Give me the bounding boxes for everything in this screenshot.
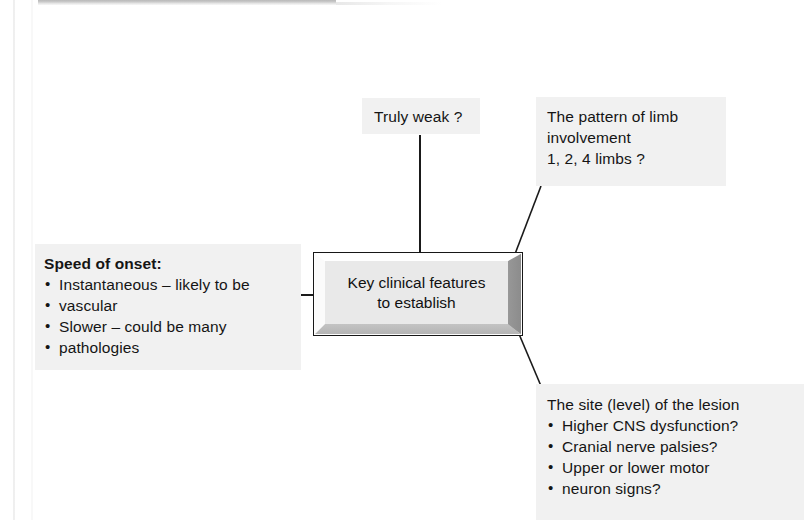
bullet-line2: neuron signs? xyxy=(562,480,661,497)
branch-speed-of-onset[interactable]: Speed of onset: Instantaneous – likely t… xyxy=(35,244,301,370)
list-item: Instantaneous – likely to be xyxy=(44,274,291,295)
bullet-line1: Upper or lower motor xyxy=(562,459,710,476)
bullet-line1: Slower – could be many xyxy=(59,318,227,335)
list-item-continuation: vascular xyxy=(44,295,291,316)
branch-limb-pattern[interactable]: The pattern of limb involvement 1, 2, 4 … xyxy=(536,97,726,186)
branch-speed-of-onset-list: Instantaneous – likely to be vascular Sl… xyxy=(44,274,291,358)
central-node-key-clinical-features[interactable]: Key clinical features to establish xyxy=(313,252,523,336)
list-item: Cranial nerve palsies? xyxy=(547,436,804,457)
branch-limb-pattern-line2: involvement xyxy=(547,127,726,148)
list-item: Upper or lower motor xyxy=(547,457,804,478)
bullet-line1: Instantaneous – likely to be xyxy=(59,276,250,293)
list-item: Slower – could be many xyxy=(44,316,291,337)
branch-limb-pattern-line3: 1, 2, 4 limbs ? xyxy=(547,148,726,169)
list-item: Higher CNS dysfunction? xyxy=(547,415,804,436)
branch-limb-pattern-line1: The pattern of limb xyxy=(547,106,726,127)
diagram-canvas: Key clinical features to establish Truly… xyxy=(0,0,805,520)
bullet-line1: Cranial nerve palsies? xyxy=(562,438,718,455)
central-node-label-line2: to establish xyxy=(377,293,455,313)
branch-lesion-site[interactable]: The site (level) of the lesion Higher CN… xyxy=(536,384,804,520)
branch-lesion-site-title: The site (level) of the lesion xyxy=(547,394,804,415)
list-item-continuation: neuron signs? xyxy=(547,478,804,499)
branch-lesion-site-list: Higher CNS dysfunction? Cranial nerve pa… xyxy=(547,415,804,499)
branch-speed-of-onset-title: Speed of onset: xyxy=(44,253,291,274)
central-node-label: Key clinical features to establish xyxy=(325,261,508,324)
bullet-line2: vascular xyxy=(59,297,118,314)
bullet-line1: Higher CNS dysfunction? xyxy=(562,417,738,434)
branch-truly-weak-text: Truly weak ? xyxy=(374,108,463,125)
list-item-continuation: pathologies xyxy=(44,337,291,358)
central-node-bevel-bottom xyxy=(315,322,522,334)
central-node-label-line1: Key clinical features xyxy=(348,273,486,293)
bullet-line2: pathologies xyxy=(59,339,139,356)
branch-truly-weak[interactable]: Truly weak ? xyxy=(362,98,480,134)
